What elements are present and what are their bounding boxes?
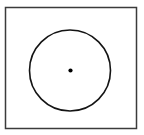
center-point-dot	[68, 68, 72, 72]
diagram-container: Circle inscribed in a square with marked…	[0, 0, 144, 135]
diagram-canvas	[0, 0, 144, 135]
diagram-background	[0, 0, 144, 135]
